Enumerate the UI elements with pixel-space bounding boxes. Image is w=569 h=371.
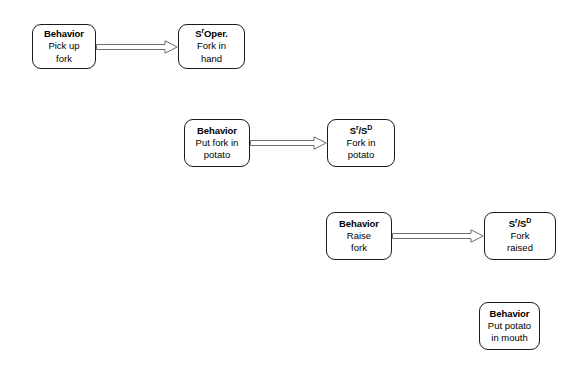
node-line-2: fork [351,242,367,254]
node-line-1: Pick up [48,40,79,52]
node-line-1: Fork in [197,40,226,52]
node-line-2: raised [507,242,533,254]
node-title: Behavior [490,308,530,320]
node-title: Sr/SD [509,218,532,230]
node-consequence-fork-raised: Sr/SDForkraised [484,212,556,260]
flow-arrow [392,229,484,243]
flow-arrow [96,40,178,54]
node-behavior-put-potato-in-mouth: BehaviorPut potatoin mouth [479,302,540,350]
node-line-2: hand [201,53,222,65]
node-line-1: Raise [347,230,371,242]
node-line-1: Put fork in [196,137,239,149]
flow-arrow [250,136,327,150]
node-line-2: potato [204,149,230,161]
node-line-1: Fork [511,230,530,242]
node-line-1: Fork in [346,137,375,149]
node-behavior-put-fork-in-potato: BehaviorPut fork inpotato [184,119,250,167]
node-title: Sr/SD [350,125,373,137]
node-line-2: fork [56,53,72,65]
node-title: Behavior [197,125,237,137]
node-title: Behavior [44,28,84,40]
node-line-1: Put potato [488,320,531,332]
node-behavior-raise-fork: BehaviorRaisefork [326,212,392,260]
node-consequence-fork-in-potato: Sr/SDFork inpotato [327,119,395,167]
node-consequence-fork-in-hand: SrOper.Fork inhand [178,24,245,69]
node-behavior-pick-up-fork: BehaviorPick upfork [32,24,96,69]
node-title: Behavior [339,218,379,230]
node-title: SrOper. [195,28,228,40]
behavior-chain-diagram: BehaviorPick upforkSrOper.Fork inhandBeh… [0,0,569,371]
node-line-2: in mouth [491,332,527,344]
node-line-2: potato [348,149,374,161]
